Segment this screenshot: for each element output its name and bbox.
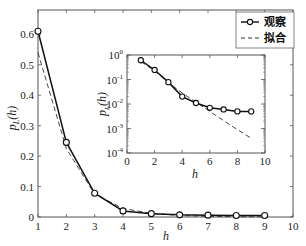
- main-observed-marker-icon: [177, 212, 183, 218]
- inset-y-tick-label: 100: [109, 48, 124, 61]
- inset-observed-marker-icon: [221, 107, 226, 112]
- legend-observed-label: 观察: [264, 15, 287, 29]
- main-x-tick-label: 6: [177, 220, 183, 232]
- svg-text:pL(h): pL(h): [95, 92, 111, 117]
- main-y-tick-label: 0.2: [20, 150, 34, 162]
- inset-y-tick-label: 10-1: [106, 73, 123, 86]
- main-x-tick-label: 5: [149, 220, 155, 232]
- main-y-tick-label: 0.6: [20, 28, 34, 40]
- main-x-tick-label: 3: [92, 220, 98, 232]
- inset-x-tick-label: 8: [235, 155, 241, 167]
- inset-observed-marker-icon: [249, 109, 254, 114]
- main-observed-marker-icon: [205, 212, 211, 218]
- inset-observed-marker-icon: [180, 94, 185, 99]
- inset-x-tick-label: 10: [260, 155, 272, 167]
- main-observed-marker-icon: [35, 28, 41, 34]
- main-x-tick-label: 4: [120, 220, 126, 232]
- main-observed-marker-icon: [233, 212, 239, 218]
- inset-x-tick-label: 2: [152, 155, 158, 167]
- main-observed-marker-icon: [63, 139, 69, 145]
- main-x-tick-label: 9: [262, 220, 268, 232]
- inset-y-tick-label: 10-4: [106, 146, 123, 159]
- main-y-tick-label: 0.1: [20, 181, 34, 193]
- main-x-tick-label: 2: [64, 220, 70, 232]
- inset-observed-marker-icon: [166, 80, 171, 85]
- main-y-axis-label-arg: (h): [5, 106, 19, 120]
- inset-x-axis-label: h: [192, 167, 198, 181]
- inset-plot: 024681010010-110-210-310-4: [106, 48, 271, 167]
- main-x-tick-label: 1: [35, 220, 41, 232]
- inset-observed-marker-icon: [193, 100, 198, 105]
- main-y-tick-label: 0: [29, 211, 35, 223]
- main-observed-marker-icon: [120, 208, 126, 214]
- chart-canvas: 1234567891000.10.20.30.40.50.6 024681010…: [0, 0, 306, 246]
- inset-y-tick-label: 10-3: [106, 122, 123, 135]
- inset-y-axis-label-arg: (h): [95, 92, 109, 106]
- main-y-tick-label: 0.5: [20, 59, 34, 71]
- main-x-tick-label: 7: [205, 220, 211, 232]
- legend-observed-marker-icon: [247, 19, 252, 24]
- legend-fit-label: 拟合: [264, 31, 287, 45]
- legend: 观察 拟合: [236, 12, 294, 48]
- main-y-axis-label-p: p: [5, 124, 19, 131]
- inset-y-axis-label-p: p: [95, 110, 109, 117]
- inset-observed-marker-icon: [207, 105, 212, 110]
- main-observed-marker-icon: [148, 211, 154, 217]
- main-observed-marker-icon: [92, 190, 98, 196]
- main-x-tick-label: 8: [234, 220, 240, 232]
- main-x-tick-label: 10: [288, 220, 300, 232]
- inset-x-tick-label: 6: [207, 155, 213, 167]
- inset-x-tick-label: 4: [179, 155, 185, 167]
- main-x-axis-label: h: [163, 229, 169, 243]
- inset-observed-marker-icon: [235, 109, 240, 114]
- inset-observed-marker-icon: [138, 58, 143, 63]
- svg-text:pL(h): pL(h): [5, 106, 21, 131]
- main-y-tick-label: 0.4: [20, 89, 34, 101]
- main-y-tick-label: 0.3: [20, 120, 34, 132]
- inset-x-tick-label: 0: [124, 155, 130, 167]
- inset-y-axis-label: pL(h): [95, 92, 111, 117]
- main-y-axis-label: pL(h): [5, 106, 21, 131]
- inset-observed-marker-icon: [152, 67, 157, 72]
- main-observed-marker-icon: [262, 212, 268, 218]
